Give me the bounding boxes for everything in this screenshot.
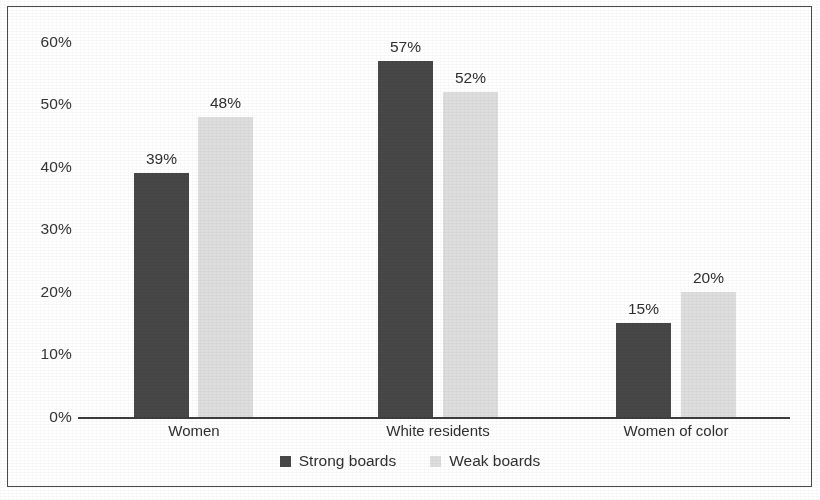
y-tick-30: 30% xyxy=(14,220,72,238)
bar-white-residents-weak xyxy=(443,92,498,417)
category-label-women: Women xyxy=(104,422,284,439)
bar-label-women-strong: 39% xyxy=(134,150,189,168)
y-tick-10: 10% xyxy=(14,345,72,363)
legend-swatch-icon-strong-boards xyxy=(280,456,291,467)
bar-women-strong xyxy=(134,173,189,417)
bar-women-weak xyxy=(198,117,253,417)
legend-item-strong-boards: Strong boards xyxy=(280,452,396,470)
legend-item-weak-boards: Weak boards xyxy=(430,452,540,470)
bar-white-residents-strong xyxy=(378,61,433,417)
bar-women-of-color-weak xyxy=(681,292,736,417)
bar-label-white-residents-strong: 57% xyxy=(378,38,433,56)
category-label-white-residents: White residents xyxy=(348,422,528,439)
y-tick-0: 0% xyxy=(14,408,72,426)
bar-label-women-weak: 48% xyxy=(198,94,253,112)
y-tick-40: 40% xyxy=(14,158,72,176)
bar-women-of-color-strong xyxy=(616,323,671,417)
legend-swatch-icon-weak-boards xyxy=(430,456,441,467)
chart-legend: Strong boards Weak boards xyxy=(0,452,820,470)
y-tick-50: 50% xyxy=(14,95,72,113)
bar-label-women-of-color-weak: 20% xyxy=(681,269,736,287)
y-tick-60: 60% xyxy=(14,33,72,51)
bar-label-white-residents-weak: 52% xyxy=(443,69,498,87)
bar-label-women-of-color-strong: 15% xyxy=(616,300,671,318)
category-label-women-of-color: Women of color xyxy=(586,422,766,439)
y-tick-20: 20% xyxy=(14,283,72,301)
legend-label-weak-boards: Weak boards xyxy=(449,452,540,470)
bar-chart: 60% 50% 40% 30% 20% 10% 0% 39% 48% Women… xyxy=(0,0,820,500)
legend-label-strong-boards: Strong boards xyxy=(299,452,396,470)
x-axis-line xyxy=(78,417,790,419)
